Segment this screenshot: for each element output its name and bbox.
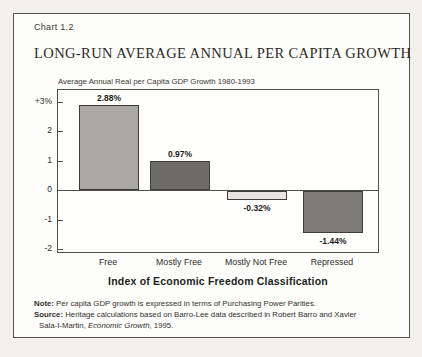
bar-value-label: 2.88% xyxy=(74,93,144,103)
y-axis-tick-label: 0 xyxy=(26,184,52,194)
category-label: Repressed xyxy=(287,257,377,268)
plot-area: 2.88%0.97%-0.32%-1.44% xyxy=(57,89,379,253)
bar-mostly-free xyxy=(150,161,210,190)
y-axis-tick-label: 1 xyxy=(26,155,52,165)
y-axis-tick-label: -2 xyxy=(26,243,52,253)
note-text: Per capita GDP growth is expressed in te… xyxy=(54,299,316,308)
source-line-2: Sala-I-Martin, Economic Growth, 1995. xyxy=(34,321,396,332)
y-axis-tick-label: -1 xyxy=(26,214,52,224)
source-text-2: Sala-I-Martin, xyxy=(39,321,88,330)
source-text: Heritage calculations based on Barro-Lee… xyxy=(63,310,356,319)
scanned-page-background: Chart 1.2 LONG-RUN AVERAGE ANNUAL PER CA… xyxy=(0,0,422,357)
chart-subtitle: Average Annual Real per Capita GDP Growt… xyxy=(58,77,255,86)
chart-card: Chart 1.2 LONG-RUN AVERAGE ANNUAL PER CA… xyxy=(13,13,410,338)
y-axis-tick xyxy=(58,249,63,250)
y-axis-tick-label: 2 xyxy=(26,125,52,135)
notes-block: Note: Per capita GDP growth is expressed… xyxy=(34,299,396,331)
chart-title: LONG-RUN AVERAGE ANNUAL PER CAPITA GROWT… xyxy=(34,45,404,62)
bar-value-label: 0.97% xyxy=(145,149,215,159)
bar-repressed xyxy=(303,191,363,233)
y-axis-tick xyxy=(58,190,63,191)
y-axis-tick xyxy=(58,161,63,162)
source-citation-italic: Economic Growth xyxy=(88,321,150,330)
note-label: Note: xyxy=(34,299,54,308)
y-axis-tick xyxy=(58,102,63,103)
bar-mostly-not-free xyxy=(227,191,287,200)
bar-value-label: -0.32% xyxy=(222,203,292,213)
note-line: Note: Per capita GDP growth is expressed… xyxy=(34,299,396,310)
y-axis-tick xyxy=(58,131,63,132)
x-axis-title: Index of Economic Freedom Classification xyxy=(57,275,379,287)
bar-free xyxy=(79,105,139,190)
source-text-3: , 1995. xyxy=(150,321,174,330)
source-label: Source: xyxy=(34,310,63,319)
bar-value-label: -1.44% xyxy=(298,236,368,246)
y-axis-tick xyxy=(58,220,63,221)
chart-number: Chart 1.2 xyxy=(34,22,74,32)
source-line: Source: Heritage calculations based on B… xyxy=(34,310,396,321)
y-axis-tick-label: +3% xyxy=(26,96,52,106)
